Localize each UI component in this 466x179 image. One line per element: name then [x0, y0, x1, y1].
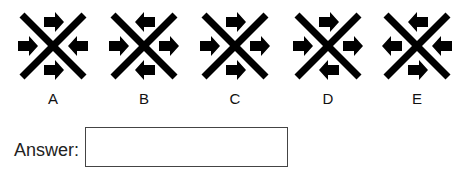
figure-label: E: [381, 90, 453, 107]
arrow-bottom-right-icon: [44, 60, 64, 80]
figure-option-d: D: [292, 8, 364, 108]
x-with-arrows-icon: [199, 10, 271, 82]
figure-option-a: A: [17, 8, 89, 108]
figure-label: C: [199, 90, 271, 107]
figure-option-b: B: [108, 8, 180, 108]
arrow-left-right-icon: [293, 36, 313, 56]
arrow-left-right-icon: [109, 36, 129, 56]
figure-label: D: [292, 90, 364, 107]
arrow-right-left-icon: [432, 36, 452, 56]
arrow-bottom-right-icon: [408, 60, 428, 80]
answer-label: Answer:: [14, 140, 79, 161]
arrow-top-left-icon: [135, 12, 155, 32]
x-with-arrows-icon: [292, 10, 364, 82]
figure-label: B: [108, 90, 180, 107]
answer-input[interactable]: [85, 127, 288, 167]
arrow-right-right-icon: [343, 36, 363, 56]
x-with-arrows-icon: [17, 10, 89, 82]
arrow-bottom-left-icon: [319, 60, 339, 80]
arrow-top-left-icon: [408, 12, 428, 32]
arrow-bottom-right-icon: [226, 60, 246, 80]
arrow-top-right-icon: [319, 12, 339, 32]
figure-label: A: [17, 90, 89, 107]
arrow-bottom-left-icon: [135, 60, 155, 80]
figure-option-e: E: [381, 8, 453, 108]
figure-option-c: C: [199, 8, 271, 108]
arrow-left-right-icon: [200, 36, 220, 56]
arrow-left-left-icon: [382, 36, 402, 56]
arrow-top-right-icon: [226, 12, 246, 32]
arrow-right-right-icon: [159, 36, 179, 56]
arrow-right-right-icon: [250, 36, 270, 56]
arrow-top-right-icon: [44, 12, 64, 32]
x-with-arrows-icon: [108, 10, 180, 82]
arrow-left-right-icon: [18, 36, 38, 56]
x-with-arrows-icon: [381, 10, 453, 82]
arrow-right-left-icon: [68, 36, 88, 56]
